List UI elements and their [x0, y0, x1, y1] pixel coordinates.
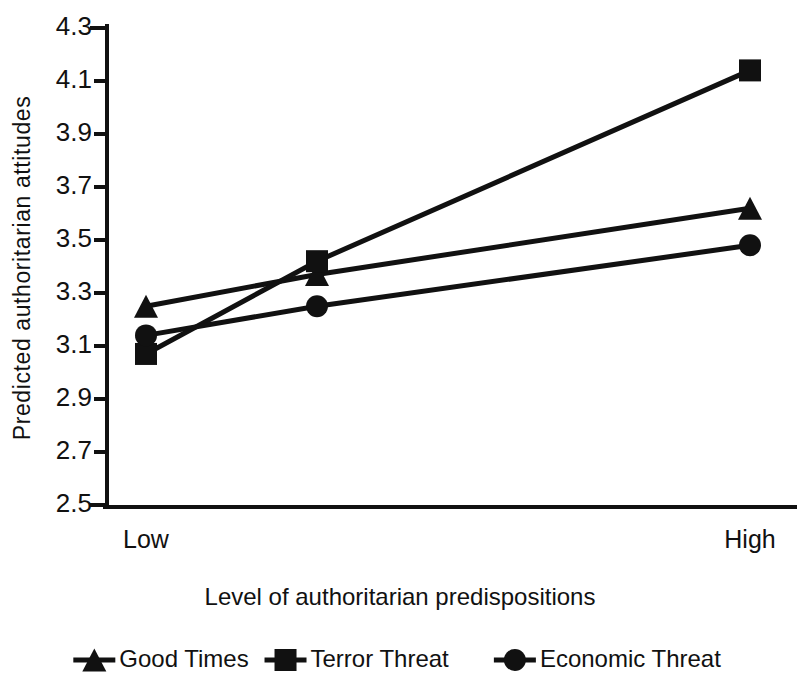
square-icon	[275, 649, 297, 671]
series-lines-group	[146, 70, 750, 354]
circle-marker	[739, 234, 761, 256]
y-axis-tick-labels: 4.34.13.93.73.53.33.12.92.72.5	[56, 11, 92, 518]
square-marker	[739, 59, 761, 81]
x-axis-title: Level of authoritarian predispositions	[205, 583, 596, 610]
y-tick-label: 2.7	[56, 435, 92, 465]
y-tick-label: 3.5	[56, 223, 92, 253]
legend-item-label: Economic Threat	[540, 645, 721, 672]
y-axis-tick-marks	[90, 28, 107, 505]
circle-icon	[504, 649, 526, 671]
y-tick-label: 3.3	[56, 276, 92, 306]
y-tick-label: 4.1	[56, 64, 92, 94]
y-tick-label: 3.9	[56, 117, 92, 147]
chart-legend: Good TimesTerror ThreatEconomic Threat	[73, 645, 721, 672]
chart-container: Predicted authoritarian attitudes 4.34.1…	[0, 0, 801, 697]
circle-marker	[306, 295, 328, 317]
y-tick-label: 2.5	[56, 488, 92, 518]
square-marker	[306, 250, 328, 272]
y-tick-label: 4.3	[56, 11, 92, 41]
circle-marker	[135, 324, 157, 346]
legend-item-label: Good Times	[119, 645, 248, 672]
y-axis-title: Predicted authoritarian attitudes	[9, 96, 35, 441]
line-chart-figure: Predicted authoritarian attitudes 4.34.1…	[0, 0, 801, 697]
y-tick-label: 3.1	[56, 329, 92, 359]
y-tick-label: 3.7	[56, 170, 92, 200]
x-axis-category-low: Low	[123, 525, 170, 553]
x-axis-category-high: High	[724, 525, 775, 553]
legend-item-label: Terror Threat	[311, 645, 450, 672]
y-tick-label: 2.9	[56, 382, 92, 412]
series-line	[146, 70, 750, 354]
